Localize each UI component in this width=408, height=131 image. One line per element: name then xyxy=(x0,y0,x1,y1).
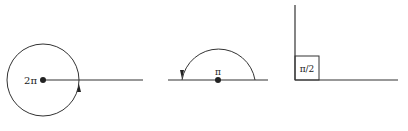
vertex-dot xyxy=(40,77,46,83)
straight-angle-figure: π xyxy=(168,49,268,83)
label-pi: π xyxy=(215,67,221,77)
right-angle-figure: π/2 xyxy=(295,5,398,80)
label-pi-over-2: π/2 xyxy=(300,64,315,74)
angle-diagram: 2π π π/2 xyxy=(0,0,408,131)
label-2pi: 2π xyxy=(24,75,37,86)
full-rotation-figure: 2π xyxy=(7,44,143,116)
vertex-dot xyxy=(215,77,221,83)
